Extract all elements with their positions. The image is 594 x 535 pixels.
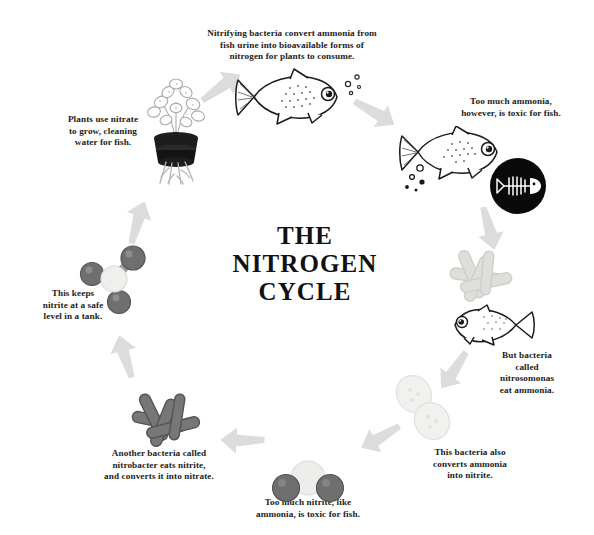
potted-plant-with-roots-icon — [136, 76, 216, 186]
ammonia-bubbles — [405, 165, 425, 192]
pale-rod-bacteria-and-fish-left-icon — [442, 243, 552, 348]
nitrite-molecule-icon — [272, 458, 344, 504]
ammonia-bubbles — [345, 75, 360, 95]
oxygen-atom-right — [317, 475, 344, 502]
oxygen-atom-left — [273, 475, 300, 502]
arrow-nitrate-to-plant — [117, 197, 156, 247]
oxygen-atom-bottom — [108, 291, 131, 314]
fish-right-with-bubbles-and-skeleton-badge-icon — [396, 126, 556, 220]
oxygen-atom-left — [81, 263, 104, 286]
caption-nitrosomonas: But bacteria called nitrosomonas eat amm… — [471, 350, 583, 396]
nitrogen-cycle-diagram: THE NITROGEN CYCLE Nitrifying bacteria c… — [0, 0, 594, 535]
caption-converts-to-nitrite: This bacteria also converts ammonia into… — [408, 447, 532, 482]
fish-eye — [482, 143, 495, 156]
dark-rod-bacteria-icon — [128, 388, 210, 456]
pot — [154, 132, 198, 167]
arrow-nitrobacter-to-nitrate — [107, 332, 143, 381]
oxygen-atom-top — [121, 246, 145, 270]
pale-rod-bacteria — [449, 249, 512, 303]
caption-ammonia-toxic: Too much ammonia, however, is toxic for … — [435, 96, 587, 119]
fish-eye-left — [457, 317, 468, 328]
fish-right-with-bubbles-icon — [232, 66, 364, 128]
nitrogen-atom — [101, 266, 127, 292]
diagram-title: THE NITROGEN CYCLE — [207, 222, 403, 306]
dividing-cell-icon — [392, 372, 454, 444]
caption-nitrifying-bacteria: Nitrifying bacteria convert ammonia from… — [183, 28, 401, 63]
fish-eye — [322, 88, 335, 101]
dead-fish-badge — [490, 158, 546, 214]
nitrate-molecule-icon — [78, 243, 150, 315]
